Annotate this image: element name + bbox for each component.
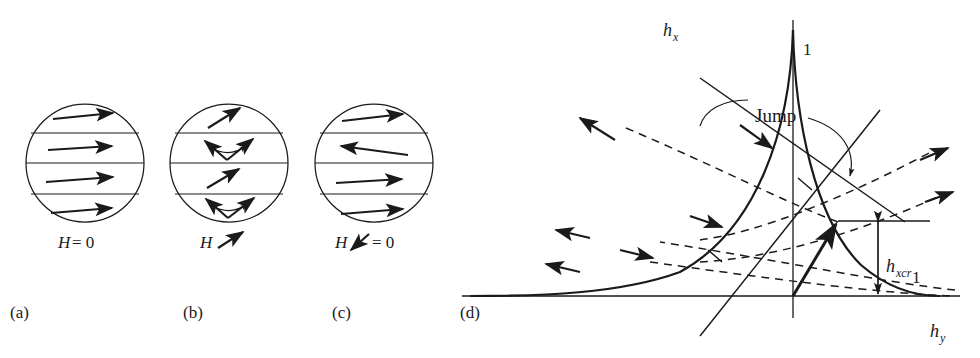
panel-c-magnetization-arrow-1 [342, 114, 403, 121]
figure-root: H = 0 H H = 0 [0, 0, 980, 358]
jump-leader-left [700, 100, 748, 126]
jump-arrow-upper [740, 125, 772, 148]
panel-c: H = 0 [315, 104, 433, 252]
panel-a-field-symbol: H [57, 233, 72, 252]
panel-b: H [170, 104, 288, 252]
panel-a-magnetization-arrow-2 [48, 146, 112, 150]
field-line-tangent-upper [700, 110, 880, 336]
trajectory-arrow-interior-1 [690, 216, 722, 227]
panel-label-d: (d) [460, 303, 480, 322]
axis-label-hy-subscript: y [939, 331, 946, 345]
dashed-trajectory-upper-right [700, 150, 935, 240]
astroid-curve-right [793, 30, 940, 296]
panel-c-magnetization-arrow-4 [341, 209, 403, 214]
axis-tick-hx-one: 1 [803, 40, 812, 59]
panel-b-magnetization-arrow-3 [207, 169, 239, 188]
trajectory-arrow-interior-2 [620, 250, 653, 258]
field-line-rotation-path [793, 224, 836, 296]
panel-a-magnetization-arrow-4 [51, 208, 112, 213]
panel-a: H = 0 [26, 104, 144, 252]
panel-d-astroid-plot: Jump h x h y 1 1 h xcr [462, 20, 960, 345]
trajectory-arrow-left-2 [546, 264, 580, 272]
panel-a-magnetization-arrow-1 [53, 113, 113, 119]
panel-label-a: (a) [10, 303, 29, 322]
hxcr-label: h [886, 256, 895, 276]
axis-label-hy: h [930, 321, 939, 341]
hxcr-label-subscript: xcr [895, 266, 912, 280]
panel-a-magnetization-arrow-3 [46, 177, 113, 182]
panel-label-c: (c) [332, 303, 351, 322]
jump-label: Jump [755, 105, 796, 126]
axis-tick-hy-one: 1 [912, 268, 921, 287]
panel-b-field-direction-arrow [218, 232, 243, 248]
panel-c-field-direction-arrow [351, 234, 369, 250]
axis-label-hx: h [663, 20, 672, 40]
figure-canvas: H = 0 H H = 0 [0, 0, 980, 358]
panel-c-field-symbol: H [334, 233, 349, 252]
field-line-tangent-steep [700, 78, 905, 222]
trajectory-arrow-right-1 [920, 148, 948, 160]
panel-label-b: (b) [183, 303, 203, 322]
panel-c-magnetization-arrow-2 [341, 146, 408, 155]
jump-leader-right [808, 118, 851, 176]
panel-a-field-value: = 0 [72, 233, 94, 252]
panel-b-magnetization-arrow-1 [208, 108, 240, 128]
panel-b-field-symbol: H [199, 233, 214, 252]
trajectory-arrow-up-left [580, 118, 615, 140]
trajectory-tick-1 [798, 178, 812, 190]
panel-c-field-value: = 0 [372, 233, 394, 252]
trajectory-arrow-left-1 [556, 230, 590, 238]
panel-c-magnetization-arrow-3 [336, 179, 402, 183]
axis-label-hx-subscript: x [672, 30, 679, 44]
trajectory-arrow-right-2 [925, 192, 953, 202]
